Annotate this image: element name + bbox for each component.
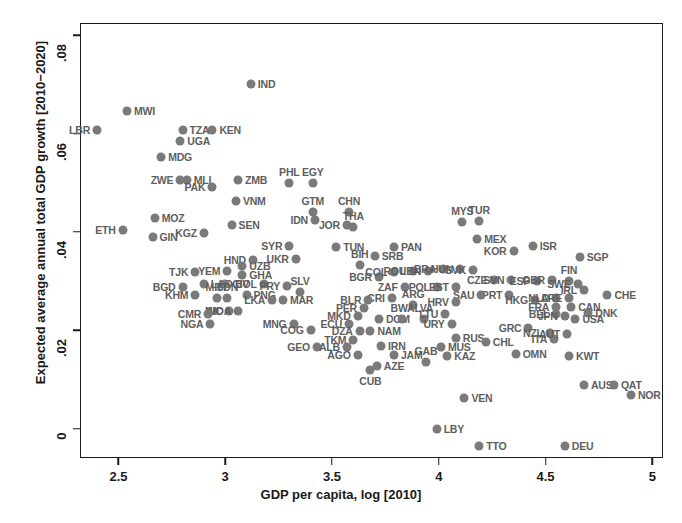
data-point bbox=[295, 287, 304, 296]
data-point-label: SVK bbox=[445, 264, 466, 276]
data-point-label: LBR bbox=[69, 124, 90, 136]
data-point bbox=[560, 312, 569, 321]
data-point-label: CUB bbox=[359, 375, 381, 387]
data-point-label: YEM bbox=[198, 265, 220, 277]
data-point bbox=[176, 136, 185, 145]
data-point bbox=[234, 176, 243, 185]
y-tick-label: 0 bbox=[54, 432, 69, 439]
data-point bbox=[626, 391, 635, 400]
data-point bbox=[432, 424, 441, 433]
data-point bbox=[93, 125, 102, 134]
data-point bbox=[370, 252, 379, 261]
data-point bbox=[567, 302, 576, 311]
data-point bbox=[360, 304, 369, 313]
data-point-label: PAK bbox=[185, 181, 206, 193]
data-point-label: EGY bbox=[302, 166, 324, 178]
data-point bbox=[150, 214, 159, 223]
y-tick-mark bbox=[73, 428, 80, 430]
data-point bbox=[579, 285, 588, 294]
data-point-label: JPN bbox=[538, 310, 558, 322]
data-point-label: MDG bbox=[168, 151, 192, 163]
data-point-label: VEN bbox=[471, 392, 492, 404]
y-tick-label: .06 bbox=[54, 143, 69, 161]
y-tick-label: .08 bbox=[54, 44, 69, 62]
data-point-label: IDN bbox=[290, 214, 307, 226]
data-point-label: SLV bbox=[290, 275, 309, 287]
data-point bbox=[212, 294, 221, 303]
data-point-label: NAM bbox=[377, 325, 400, 337]
data-point-label: KAZ bbox=[454, 350, 475, 362]
data-point bbox=[291, 254, 300, 263]
data-point bbox=[355, 261, 364, 270]
x-tick-mark bbox=[438, 458, 440, 465]
data-point-label: SEN bbox=[239, 219, 260, 231]
data-point bbox=[353, 350, 362, 359]
data-point bbox=[447, 320, 456, 329]
data-point-label: SGP bbox=[587, 251, 609, 263]
x-tick-label: 3.5 bbox=[323, 469, 341, 484]
data-point-label: KEN bbox=[219, 124, 241, 136]
scatter-plot-figure: 2.533.544.55 0.02.04.06.08 LBRMWITZAUGAK… bbox=[0, 0, 682, 523]
data-point-label: SDN bbox=[217, 281, 239, 293]
data-point-label: MOZ bbox=[162, 212, 185, 224]
data-point bbox=[206, 320, 215, 329]
data-point bbox=[451, 297, 460, 306]
x-tick-label: 4.5 bbox=[536, 469, 554, 484]
data-point bbox=[477, 290, 486, 299]
data-point-label: JOR bbox=[319, 219, 340, 231]
data-point bbox=[421, 358, 430, 367]
data-point-label: COG bbox=[280, 324, 303, 336]
data-point bbox=[458, 218, 467, 227]
data-point bbox=[199, 228, 208, 237]
data-point bbox=[353, 312, 362, 321]
data-point-label: ZAF bbox=[378, 281, 398, 293]
data-point bbox=[366, 327, 375, 336]
data-point bbox=[208, 125, 217, 134]
data-point-label: CHE bbox=[614, 289, 636, 301]
data-point bbox=[575, 253, 584, 262]
data-point bbox=[191, 290, 200, 299]
data-point bbox=[609, 381, 618, 390]
x-tick-mark bbox=[545, 458, 547, 465]
data-point bbox=[223, 267, 232, 276]
data-point-label: KGZ bbox=[175, 227, 197, 239]
data-point bbox=[528, 241, 537, 250]
data-point-label: SVN bbox=[483, 274, 504, 286]
y-tick-mark bbox=[73, 231, 80, 233]
data-point-label: UGA bbox=[187, 135, 210, 147]
data-point-label: PAN bbox=[401, 241, 422, 253]
data-point-label: AGO bbox=[327, 349, 350, 361]
data-point-label: FIN bbox=[561, 264, 577, 276]
data-point bbox=[481, 338, 490, 347]
data-point-label: GBR bbox=[522, 274, 545, 286]
data-point bbox=[223, 294, 232, 303]
data-point bbox=[148, 232, 157, 241]
data-point-label: BOL bbox=[235, 278, 257, 290]
data-point-label: BWA bbox=[391, 302, 415, 314]
data-point bbox=[306, 326, 315, 335]
data-point bbox=[349, 222, 358, 231]
data-point bbox=[460, 394, 469, 403]
data-point-label: THA bbox=[343, 210, 364, 222]
data-point-label: TZA bbox=[190, 124, 210, 136]
x-tick-mark bbox=[224, 458, 226, 465]
data-point bbox=[278, 295, 287, 304]
data-point-label: HKG bbox=[505, 294, 528, 306]
data-point-label: KWT bbox=[576, 350, 599, 362]
data-point bbox=[377, 341, 386, 350]
x-axis-title: GDP per capita, log [2010] bbox=[0, 487, 682, 502]
data-point-label: NGA bbox=[181, 318, 204, 330]
data-point bbox=[349, 336, 358, 345]
data-point bbox=[562, 330, 571, 339]
data-point-label: ISR bbox=[540, 240, 557, 252]
data-point-label: KHM bbox=[165, 289, 188, 301]
data-point bbox=[565, 351, 574, 360]
data-point bbox=[473, 235, 482, 244]
data-point bbox=[268, 295, 277, 304]
data-point bbox=[238, 262, 247, 271]
data-point bbox=[389, 350, 398, 359]
data-point bbox=[475, 441, 484, 450]
y-tick-label: .04 bbox=[54, 241, 69, 259]
data-point bbox=[509, 246, 518, 255]
data-point-label: SYR bbox=[261, 240, 282, 252]
